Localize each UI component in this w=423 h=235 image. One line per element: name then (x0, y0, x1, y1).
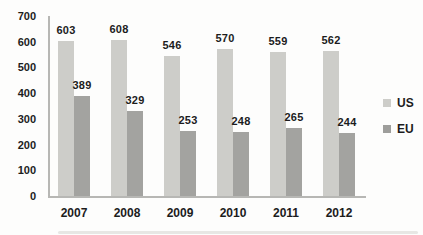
data-label-us-2012: 562 (313, 34, 349, 48)
y-axis-line (48, 16, 50, 197)
data-label-us-2007: 603 (48, 24, 84, 38)
bar-eu-2007 (74, 96, 90, 196)
legend-label-eu: EU (397, 122, 414, 136)
data-label-eu-2011: 265 (276, 111, 312, 125)
y-axis-tick-label: 200 (6, 137, 36, 153)
y-axis-tick-label: 500 (6, 59, 36, 75)
bar-us-2008 (111, 40, 127, 196)
data-label-us-2010: 570 (207, 32, 243, 46)
legend-swatch-us (383, 99, 391, 107)
y-axis-tick-label: 300 (6, 111, 36, 127)
x-axis-label-2008: 2008 (101, 206, 153, 221)
y-axis-tick-label: 100 (6, 162, 36, 178)
bar-eu-2009 (180, 131, 196, 196)
x-axis-label-2007: 2007 (48, 206, 100, 221)
legend-item-us: US (383, 97, 414, 109)
x-axis-label-2009: 2009 (154, 206, 206, 221)
legend-swatch-eu (383, 125, 391, 133)
data-label-eu-2008: 329 (117, 94, 153, 108)
data-label-us-2011: 559 (260, 35, 296, 49)
data-label-eu-2009: 253 (170, 114, 206, 128)
bar-us-2007 (58, 41, 74, 196)
y-axis-tick-label: 0 (6, 188, 36, 204)
bar-eu-2012 (339, 133, 355, 196)
legend-label-us: US (397, 96, 414, 110)
y-axis-tick-label: 600 (6, 34, 36, 50)
bar-eu-2011 (286, 128, 302, 196)
x-axis-label-2012: 2012 (313, 206, 365, 221)
y-axis-tick-label: 700 (6, 8, 36, 24)
data-label-us-2009: 546 (154, 39, 190, 53)
bar-eu-2008 (127, 111, 143, 196)
bar-chart: 0100200300400500600700603389200760832920… (0, 0, 423, 235)
scan-artifact (58, 231, 418, 234)
data-label-us-2008: 608 (101, 23, 137, 37)
x-axis-label-2011: 2011 (260, 206, 312, 221)
x-axis-line (48, 196, 366, 198)
y-axis-tick-label: 400 (6, 85, 36, 101)
legend-item-eu: EU (383, 123, 414, 135)
legend: USEU (383, 97, 414, 149)
data-label-eu-2007: 389 (64, 79, 100, 93)
x-axis-label-2010: 2010 (207, 206, 259, 221)
bar-eu-2010 (233, 132, 249, 196)
data-label-eu-2012: 244 (329, 116, 365, 130)
data-label-eu-2010: 248 (223, 115, 259, 129)
